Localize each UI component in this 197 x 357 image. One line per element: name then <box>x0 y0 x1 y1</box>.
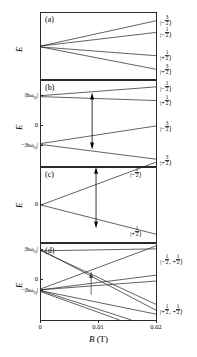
level-line <box>41 47 156 56</box>
energy-level-figure: (a) (b) <box>0 0 197 357</box>
x-tick-label: 0 <box>38 324 41 331</box>
y-tick-label: −|ħωQ| <box>21 287 38 296</box>
panel-d: (d) <box>40 243 157 321</box>
panel-b-lines <box>41 81 156 166</box>
level-line <box>41 21 156 46</box>
y-tickmark <box>40 125 43 126</box>
ket-label-b-3: |−32⟩ <box>160 121 172 133</box>
y-tickmark <box>40 95 43 96</box>
level-line <box>41 126 156 144</box>
y-tickmark <box>40 279 43 280</box>
ket-label-c-1: |−12⟩ <box>130 167 142 179</box>
y-ticks-d: |ħωQ| 0 −|ħωQ| <box>0 0 38 357</box>
y-tick-label: |ħωQ| <box>25 246 38 255</box>
transition-arrow <box>90 93 94 150</box>
x-tick-label: 0.02 <box>150 324 161 331</box>
panel-d-lines <box>41 244 156 320</box>
ket-label-a-4: |+32⟩ <box>160 64 172 76</box>
x-axis-label: B (T) <box>40 334 157 344</box>
y-tickmark <box>40 145 43 146</box>
level-line <box>41 145 156 160</box>
level-line <box>41 292 120 320</box>
ket-label-a-3: |+12⟩ <box>160 50 172 62</box>
panel-a: (a) <box>40 12 157 80</box>
ket-label-a-1: |−32⟩ <box>160 15 172 27</box>
level-line <box>41 97 156 101</box>
ket-label-a-2: |−12⟩ <box>160 27 172 39</box>
x-tick-labels: 0 0.01 0.02 <box>40 324 157 334</box>
level-line <box>41 87 156 96</box>
panel-a-lines <box>41 13 156 79</box>
level-line <box>41 249 156 251</box>
ket-label-d-2: |+12, +12⟩ <box>160 304 183 316</box>
y-tickmark <box>40 290 43 291</box>
ket-label-d-1: |−12, +12⟩ <box>160 254 183 266</box>
level-line <box>41 291 156 314</box>
ket-label-b-4: |+32⟩ <box>160 155 172 167</box>
ket-label-b-2: |+12⟩ <box>160 95 172 107</box>
y-tickmark <box>40 249 43 250</box>
level-line <box>41 291 131 320</box>
y-tickmark <box>40 204 43 205</box>
panel-a-plot <box>41 13 156 79</box>
panel-b-plot <box>41 81 156 166</box>
panel-b: (b) <box>40 80 157 167</box>
ket-label-c-2: |+12⟩ <box>130 226 142 238</box>
level-line <box>41 47 156 69</box>
x-tick-label: 0.01 <box>92 324 103 331</box>
x-axis-unit: (T) <box>97 334 109 344</box>
panel-d-plot <box>41 244 156 320</box>
ket-label-b-1: |−12⟩ <box>160 81 172 93</box>
x-axis-symbol: B <box>89 334 95 344</box>
level-line <box>41 32 156 46</box>
y-tick-label: 0 <box>35 276 38 283</box>
